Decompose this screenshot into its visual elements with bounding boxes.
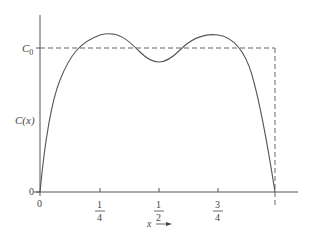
x-tick-label-three-quarter: 3 4: [213, 199, 223, 223]
y-label-zero: 0: [29, 186, 34, 197]
x-axis-label: x: [146, 218, 152, 229]
svg-text:3: 3: [215, 199, 220, 210]
chart: C0 C(x) 0 0 1 4 1 2 3 4 x: [0, 0, 312, 241]
arrowhead-icon: [166, 222, 172, 226]
svg-text:4: 4: [215, 212, 220, 223]
c-of-x-curve: [40, 34, 275, 192]
svg-text:1: 1: [97, 199, 102, 210]
x-tick-label-half: 1 2: [154, 199, 164, 223]
x-tick-label-0: 0: [37, 198, 42, 209]
x-tick-label-quarter: 1 4: [95, 199, 105, 223]
y-axis-label: C(x): [15, 114, 35, 127]
svg-text:1: 1: [156, 199, 161, 210]
svg-text:2: 2: [156, 212, 161, 223]
y-label-c0: C0: [22, 42, 33, 57]
svg-text:4: 4: [97, 212, 102, 223]
